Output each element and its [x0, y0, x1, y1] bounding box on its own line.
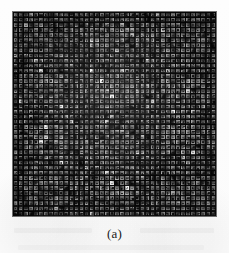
montage-cell-feature: [213, 147, 215, 149]
montage-cell-feature: [107, 24, 109, 25]
montage-cell-feature: [81, 50, 83, 52]
montage-cell-thumbnail: [110, 59, 114, 63]
montage-cell-thumbnail: [24, 207, 28, 211]
montage-cell-feature: [147, 214, 148, 215]
montage-cell-thumbnail: [110, 135, 114, 139]
montage-cell-feature: [116, 121, 118, 122]
montage-cell-feature: [117, 198, 119, 199]
montage-cell-feature: [70, 14, 71, 15]
montage-cell-thumbnail: [80, 181, 84, 185]
montage-cell-thumbnail: [34, 84, 38, 88]
montage-cell-thumbnail: [115, 33, 119, 37]
montage-cell-feature: [19, 116, 20, 117]
montage-cell-thumbnail: [196, 48, 200, 52]
montage-cell-thumbnail: [29, 33, 33, 37]
montage-cell-thumbnail: [201, 191, 205, 195]
montage-cell-feature: [168, 182, 169, 184]
montage-cell-thumbnail: [136, 171, 140, 175]
montage-cell-thumbnail: [29, 13, 33, 17]
montage-cell-feature: [60, 35, 62, 36]
montage-cell-feature: [25, 178, 27, 179]
montage-cell-thumbnail: [70, 74, 74, 78]
montage-cell-thumbnail: [196, 125, 200, 129]
montage-cell-feature: [172, 125, 173, 126]
montage-cell-thumbnail: [24, 89, 28, 93]
montage-cell-thumbnail: [39, 23, 43, 27]
montage-cell-thumbnail: [85, 191, 89, 195]
montage-cell-feature: [182, 75, 184, 77]
montage-cell-thumbnail: [191, 120, 195, 124]
montage-cell-thumbnail: [125, 181, 129, 185]
montage-cell-thumbnail: [49, 48, 53, 52]
montage-cell-thumbnail: [34, 212, 38, 216]
montage-cell-feature: [152, 197, 154, 199]
montage-cell-thumbnail: [191, 18, 195, 22]
montage-cell-feature: [192, 14, 193, 15]
montage-cell-thumbnail: [110, 18, 114, 22]
montage-cell-feature: [96, 106, 98, 108]
montage-cell-feature: [101, 116, 103, 118]
montage-cell-feature: [182, 44, 184, 46]
montage-cell-thumbnail: [80, 120, 84, 124]
montage-cell-feature: [152, 141, 154, 142]
montage-cell-feature: [96, 214, 98, 215]
montage-cell-thumbnail: [80, 59, 84, 63]
montage-cell-feature: [56, 75, 58, 76]
montage-cell-feature: [146, 96, 149, 97]
montage-cell-thumbnail: [181, 13, 185, 17]
montage-cell-thumbnail: [171, 201, 175, 205]
montage-cell-thumbnail: [201, 99, 205, 103]
montage-cell-feature: [76, 18, 78, 19]
montage-cell-thumbnail: [80, 74, 84, 78]
montage-cell-thumbnail: [59, 89, 63, 93]
montage-cell-feature: [142, 36, 143, 37]
montage-cell-thumbnail: [212, 140, 216, 144]
montage-cell-thumbnail: [125, 130, 129, 134]
montage-image-panel: [13, 12, 216, 216]
montage-cell-thumbnail: [186, 79, 190, 83]
montage-cell-thumbnail: [59, 13, 63, 17]
montage-cell-thumbnail: [14, 201, 18, 205]
montage-cell-thumbnail: [151, 99, 155, 103]
montage-cell-thumbnail: [186, 171, 190, 175]
montage-cell-thumbnail: [156, 99, 160, 103]
montage-cell-thumbnail: [201, 94, 205, 98]
montage-cell-thumbnail: [151, 156, 155, 160]
montage-cell-thumbnail: [64, 171, 68, 175]
montage-cell-thumbnail: [70, 84, 74, 88]
montage-cell-feature: [187, 85, 188, 86]
montage-cell-feature: [45, 64, 47, 66]
montage-cell-feature: [176, 49, 178, 50]
montage-cell-feature: [202, 19, 204, 21]
montage-cell-feature: [45, 193, 47, 195]
montage-cell-thumbnail: [141, 186, 145, 190]
montage-cell-feature: [41, 65, 43, 67]
montage-cell-thumbnail: [156, 94, 160, 98]
montage-cell-feature: [213, 24, 215, 25]
montage-cell-thumbnail: [19, 140, 23, 144]
montage-cell-feature: [91, 29, 93, 31]
montage-cell-thumbnail: [201, 105, 205, 109]
montage-cell-thumbnail: [207, 196, 211, 200]
montage-cell-thumbnail: [181, 140, 185, 144]
montage-cell-thumbnail: [75, 135, 79, 139]
montage-cell-feature: [20, 85, 22, 86]
montage-cell-thumbnail: [70, 105, 74, 109]
montage-cell-feature: [183, 121, 184, 123]
montage-cell-thumbnail: [181, 130, 185, 134]
montage-cell-feature: [19, 187, 21, 188]
montage-cell-feature: [126, 142, 127, 143]
montage-cell-feature: [126, 15, 127, 16]
montage-cell-thumbnail: [141, 196, 145, 200]
montage-cell-feature: [15, 199, 17, 200]
montage-cell-feature: [16, 172, 18, 173]
montage-cell-feature: [132, 75, 133, 77]
montage-cell-thumbnail: [90, 105, 94, 109]
montage-cell-feature: [80, 177, 82, 179]
montage-cell-feature: [156, 23, 158, 25]
montage-cell-thumbnail: [201, 74, 205, 78]
montage-cell-feature: [136, 197, 138, 199]
montage-cell-thumbnail: [39, 54, 43, 58]
montage-cell-thumbnail: [105, 161, 109, 165]
montage-cell-thumbnail: [161, 33, 165, 37]
